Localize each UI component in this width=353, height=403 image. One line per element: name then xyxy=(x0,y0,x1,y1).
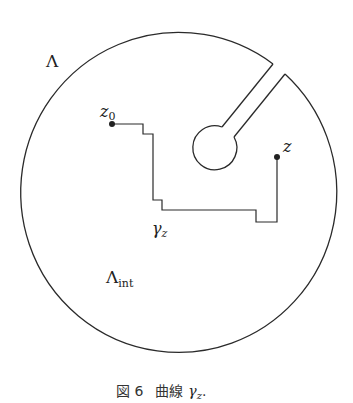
diagram-canvas: Λ z0 z γz Λint 図 6曲線γz. xyxy=(0,0,353,403)
start-point-label: z0 xyxy=(99,102,115,123)
keyhole-circle xyxy=(193,126,237,170)
end-point-dot xyxy=(274,154,280,160)
region-label: Λ xyxy=(45,51,59,71)
slit-wall-upper xyxy=(222,64,273,127)
curve-label: γz xyxy=(152,219,168,240)
interior-label: Λint xyxy=(105,267,134,290)
figure-caption: 図 6曲線γz. xyxy=(116,383,206,401)
slit-wall-lower xyxy=(234,74,285,137)
end-point-label: z xyxy=(282,137,292,156)
domain-boundary xyxy=(21,32,337,352)
